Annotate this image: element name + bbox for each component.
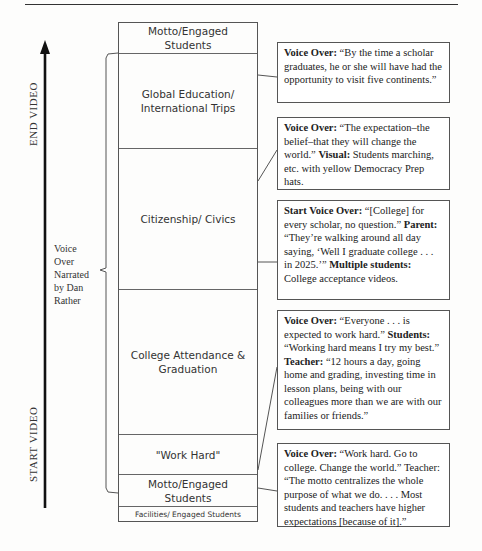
- segment-facilities: Facilities/ Engaged Students: [119, 506, 257, 523]
- start-video-label: START VIDEO: [27, 407, 39, 482]
- video-segment-column: Motto/Engaged Students Global Education/…: [118, 22, 258, 522]
- narration-label: Voice Over Narrated by Dan Rather: [54, 242, 104, 307]
- callout-college: Start Voice Over: “[College] for every s…: [277, 200, 450, 300]
- segment-citizenship: Citizenship/ Civics: [119, 148, 257, 289]
- callout-work-hard: Voice Over: “Everyone . . . is expected …: [277, 310, 450, 430]
- callout-global-education: Voice Over: “By the time a scholar gradu…: [277, 42, 450, 103]
- arrow-up-icon: [40, 40, 50, 54]
- callout-motto: Voice Over: “Work hard. Go to college. C…: [277, 443, 450, 527]
- segment-global-education: Global Education/ International Trips: [119, 53, 257, 148]
- segment-motto-bottom: Motto/Engaged Students: [119, 474, 257, 506]
- segment-college: College Attendance & Graduation: [119, 289, 257, 434]
- callout-citizenship: Voice Over: “The expectation–the belief–…: [277, 117, 450, 190]
- segment-motto-top: Motto/Engaged Students: [119, 23, 257, 53]
- segment-work-hard: "Work Hard": [119, 434, 257, 474]
- end-video-label: END VIDEO: [27, 82, 39, 146]
